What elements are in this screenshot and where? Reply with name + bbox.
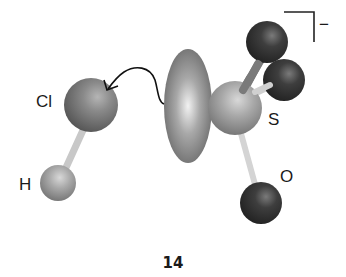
bond-s-o3 <box>240 130 256 188</box>
charge-minus: − <box>319 15 329 34</box>
label-o: O <box>280 167 293 186</box>
oxygen-atom-right <box>263 59 305 101</box>
oxygen-atom-bottom <box>240 182 282 224</box>
molecule-diagram: Cl H S O − 14 <box>0 0 346 277</box>
lone-pair-lobe <box>164 49 212 163</box>
hydrogen-atom <box>40 165 76 201</box>
label-h: H <box>19 175 31 194</box>
oxygen-atom-top <box>246 21 288 63</box>
label-s: S <box>268 110 279 129</box>
sulfur-atom <box>208 81 262 135</box>
figure-number: 14 <box>163 254 184 272</box>
bond-cl-h <box>64 128 84 172</box>
bracket <box>284 12 314 42</box>
label-cl: Cl <box>36 92 52 111</box>
